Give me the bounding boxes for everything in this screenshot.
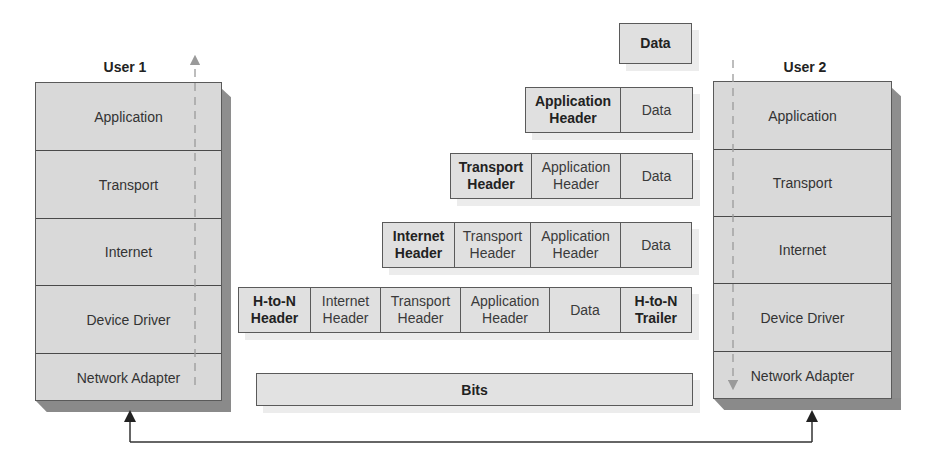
connector-overlay [0,0,936,466]
